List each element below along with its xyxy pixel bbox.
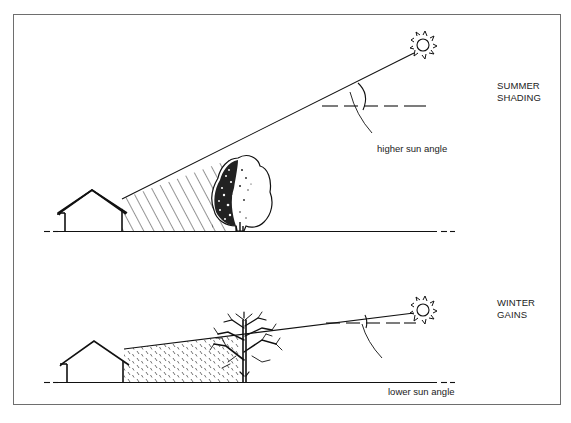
summer-angle-leader	[350, 92, 372, 133]
sun-icon	[410, 296, 437, 324]
winter-angle-label: lower sun angle	[388, 386, 455, 398]
winter-title-line-2: GAINS	[497, 309, 527, 321]
summer-title-line-1: SUMMER	[497, 80, 540, 92]
figure-border	[14, 15, 561, 405]
winter-panel	[44, 296, 455, 383]
summer-angle-label: higher sun angle	[377, 143, 447, 155]
summer-angle-arc	[358, 83, 366, 110]
winter-angle-leader	[362, 324, 382, 358]
winter-angle-arc	[365, 315, 367, 328]
summer-panel	[44, 31, 455, 232]
summer-title-line-2: SHADING	[497, 92, 541, 104]
sun-icon	[410, 31, 437, 59]
sun-angle-diagram	[0, 0, 571, 423]
house-icon	[60, 341, 129, 382]
house-icon	[58, 190, 127, 231]
winter-title-line-1: WINTER	[497, 297, 535, 309]
